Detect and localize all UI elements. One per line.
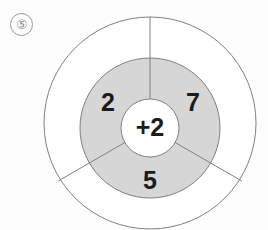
- problem-number-badge: ⑤: [10, 13, 33, 36]
- center-rule-label: +2: [136, 113, 165, 141]
- sector-value-upper-right: 7: [186, 88, 200, 116]
- sector-value-bottom: 5: [143, 166, 157, 194]
- sector-value-upper-left: 2: [101, 88, 115, 116]
- worksheet-problem: ⑤ 2 7 5 +2: [0, 0, 268, 230]
- number-wheel-diagram: 2 7 5 +2: [42, 16, 258, 230]
